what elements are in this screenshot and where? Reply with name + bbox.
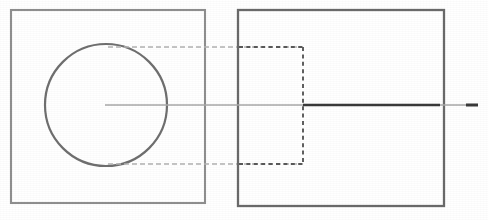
drawing-surface [0,0,488,220]
side-view-outline [238,10,444,206]
side-view [238,10,444,206]
front-view-outline [11,10,205,203]
technical-drawing-canvas [0,0,488,220]
front-view [11,10,205,203]
